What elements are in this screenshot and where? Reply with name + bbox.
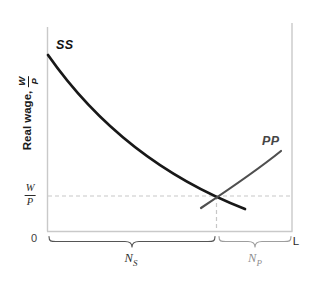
- origin-label: 0: [31, 233, 37, 244]
- y-axis-title-fraction: W P: [17, 76, 39, 87]
- ns-underbrace: [49, 237, 215, 248]
- wage-numerator-w: W: [25, 183, 36, 196]
- labor-endowment-label: L: [293, 236, 299, 248]
- y-axis-title: Real wage, W P: [17, 76, 39, 150]
- np-segment-label: NP: [248, 252, 262, 268]
- labor-market-diagram: Real wage, W P SS PP W P 0 L NS NP: [0, 0, 315, 281]
- y-axis-title-text: Real wage,: [22, 91, 34, 150]
- pp-curve: [201, 151, 281, 208]
- wage-level-label: W P: [25, 183, 36, 207]
- ss-curve: [48, 55, 245, 209]
- np-underbrace: [219, 237, 291, 248]
- np-subscript: P: [256, 258, 262, 268]
- wage-level-fraction: W P: [25, 183, 36, 207]
- ss-curve-label: SS: [56, 39, 74, 52]
- wage-denominator-p: P: [27, 196, 33, 208]
- fraction-numerator-w: W: [17, 76, 29, 87]
- fraction-denominator-p: P: [29, 78, 40, 84]
- ns-subscript: S: [133, 258, 138, 268]
- ns-segment-label: NS: [125, 252, 138, 268]
- pp-curve-label: PP: [262, 135, 280, 148]
